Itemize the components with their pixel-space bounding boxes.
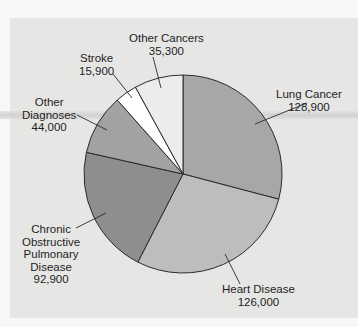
label-value: 15,900: [79, 65, 114, 78]
label-name: Lung Cancer: [276, 88, 342, 101]
label-other-diagnoses: Other Diagnoses 44,000: [22, 96, 76, 134]
leader-stroke: [113, 74, 132, 98]
label-name-line: Diagnoses: [22, 109, 76, 122]
label-name-line: Chronic: [22, 223, 80, 236]
label-name-line: Obstructive: [22, 236, 80, 249]
label-name: Stroke: [79, 52, 114, 65]
label-name: Heart Disease: [222, 283, 295, 296]
label-name-line: Other: [22, 96, 76, 109]
label-name: Other Cancers: [129, 32, 204, 45]
label-value: 128,900: [276, 101, 342, 114]
label-value: 35,300: [129, 45, 204, 58]
label-lung-cancer: Lung Cancer 128,900: [276, 88, 342, 113]
label-value: 92,900: [22, 273, 80, 286]
label-heart-disease: Heart Disease 126,000: [222, 283, 295, 308]
pie-slices: [84, 75, 282, 273]
label-name-line: Disease: [22, 261, 80, 274]
label-other-cancers: Other Cancers 35,300: [129, 32, 204, 57]
label-name-line: Pulmonary: [22, 248, 80, 261]
label-copd: Chronic Obstructive Pulmonary Disease 92…: [22, 223, 80, 286]
label-value: 126,000: [222, 296, 295, 309]
label-stroke: Stroke 15,900: [79, 52, 114, 77]
label-value: 44,000: [22, 121, 76, 134]
